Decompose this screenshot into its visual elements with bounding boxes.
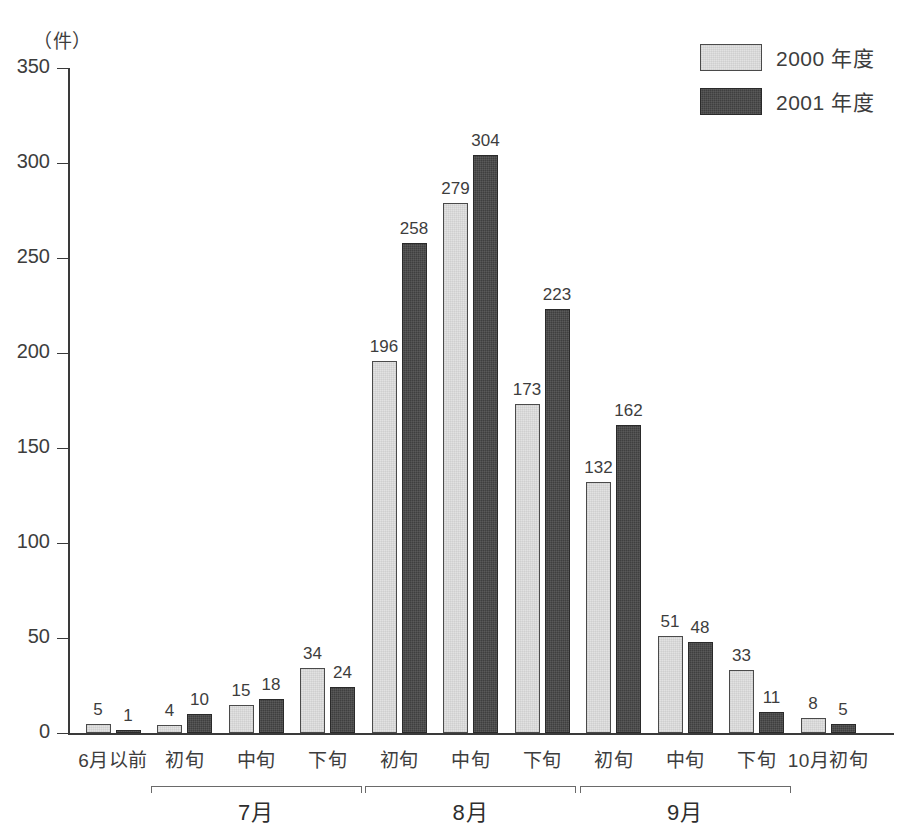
bar-2000年度-10 <box>801 718 826 733</box>
bracket-cap-right <box>790 786 791 793</box>
x-axis-category-label: 10月初旬 <box>768 745 888 772</box>
bracket-line <box>580 786 791 787</box>
y-axis-tick-label: 250 <box>0 245 50 268</box>
bracket-cap-right <box>575 786 576 793</box>
y-axis-tick <box>57 258 68 259</box>
month-group-label: 7月 <box>151 794 362 826</box>
bar-value-label: 24 <box>318 663 367 683</box>
bar-value-label: 33 <box>717 646 766 666</box>
bar-2000年度-2 <box>229 705 254 734</box>
bar-value-label: 279 <box>431 179 480 199</box>
bar-value-label: 48 <box>676 618 725 638</box>
y-axis-tick-label: 0 <box>0 720 50 743</box>
y-axis-tick-label: 200 <box>0 340 50 363</box>
bar-2000年度-1 <box>157 725 182 733</box>
bar-2001年度-9 <box>759 712 784 733</box>
y-axis-tick <box>57 543 68 544</box>
y-axis-tick <box>57 353 68 354</box>
bar-2001年度-5 <box>473 155 498 733</box>
bar-2001年度-2 <box>259 699 284 733</box>
y-axis-tick <box>57 163 68 164</box>
bracket-cap-left <box>580 786 581 793</box>
bracket-cap-right <box>361 786 362 793</box>
bar-value-label: 304 <box>461 131 510 151</box>
bracket-line <box>151 786 362 787</box>
y-axis-tick <box>57 638 68 639</box>
y-axis-tick <box>57 68 68 69</box>
y-axis-unit-label: （件） <box>33 26 92 53</box>
bar-2001年度-8 <box>688 642 713 733</box>
bar-2000年度-6 <box>515 404 540 733</box>
bar-2001年度-6 <box>545 309 570 733</box>
y-axis-tick <box>57 733 68 734</box>
bar-value-label: 5 <box>819 700 868 720</box>
y-axis-tick-label: 300 <box>0 150 50 173</box>
bar-2000年度-7 <box>586 482 611 733</box>
bar-2000年度-5 <box>443 203 468 733</box>
bar-value-label: 132 <box>574 458 623 478</box>
bar-value-label: 18 <box>247 675 296 695</box>
y-axis-tick-label: 350 <box>0 55 50 78</box>
y-axis-line <box>68 68 70 733</box>
y-axis-tick-label: 50 <box>0 625 50 648</box>
bar-2001年度-10 <box>831 724 856 734</box>
month-group-label: 8月 <box>365 794 576 826</box>
bar-2001年度-4 <box>402 243 427 733</box>
plot-area <box>68 68 894 733</box>
bar-chart: （件） 2000 年度 2001 年度 05010015020025030035… <box>0 0 909 831</box>
bar-2001年度-0 <box>116 730 141 733</box>
bar-value-label: 34 <box>288 644 337 664</box>
bar-2000年度-8 <box>658 636 683 733</box>
bracket-cap-left <box>151 786 152 793</box>
y-axis-tick-label: 100 <box>0 530 50 553</box>
bar-value-label: 258 <box>390 219 439 239</box>
bar-2001年度-3 <box>330 687 355 733</box>
x-axis-line <box>68 733 894 735</box>
bar-value-label: 162 <box>604 401 653 421</box>
bracket-line <box>365 786 576 787</box>
bar-value-label: 223 <box>533 285 582 305</box>
legend-swatch-2000 <box>700 44 762 71</box>
bar-value-label: 196 <box>360 337 409 357</box>
bracket-cap-left <box>365 786 366 793</box>
y-axis-tick-label: 150 <box>0 435 50 458</box>
bar-value-label: 173 <box>503 380 552 400</box>
y-axis-tick <box>57 448 68 449</box>
bar-2000年度-4 <box>372 361 397 733</box>
month-group-label: 9月 <box>580 794 791 826</box>
